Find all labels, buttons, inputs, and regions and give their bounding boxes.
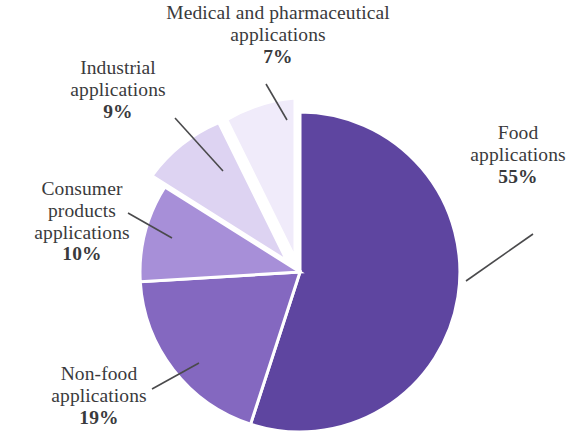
slice-label-line: applications <box>128 24 428 46</box>
slice-value-food: 55% <box>455 166 581 188</box>
slice-label-food: Food applications 55% <box>455 122 581 187</box>
slice-value-non-food: 19% <box>14 407 184 429</box>
slice-value-industrial: 9% <box>28 101 208 123</box>
slice-label-line: applications <box>28 79 208 101</box>
leader-line-food <box>466 234 533 281</box>
slice-label-line: Food <box>455 122 581 144</box>
slice-label-consumer-products: Consumer products applications 10% <box>2 178 162 265</box>
pie-chart: Medical and pharmaceutical applications … <box>0 0 583 446</box>
slice-label-line: Consumer <box>2 178 162 200</box>
slice-label-line: applications <box>2 222 162 244</box>
slice-label-line: products <box>2 200 162 222</box>
slice-label-line: applications <box>455 144 581 166</box>
slice-label-line: Medical and pharmaceutical <box>128 2 428 24</box>
slice-label-line: Non-food <box>14 363 184 385</box>
slice-label-industrial: Industrial applications 9% <box>28 57 208 122</box>
slice-label-non-food: Non-food applications 19% <box>14 363 184 428</box>
slice-label-line: applications <box>14 385 184 407</box>
slice-value-consumer-products: 10% <box>2 243 162 265</box>
slice-label-line: Industrial <box>28 57 208 79</box>
